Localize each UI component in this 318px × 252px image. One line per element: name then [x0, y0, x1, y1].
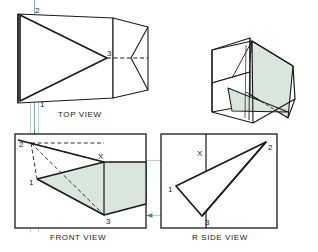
side-view-label-point2: 2 [268, 143, 273, 152]
top-view-group: 2 3 1 TOP VIEW [18, 6, 148, 119]
projector-arrowhead-left-point3 [146, 213, 153, 218]
side-view-label-x: X [197, 149, 203, 158]
front-view-label-point2: 2 [19, 140, 24, 149]
front-view-label-point1: 1 [29, 178, 34, 187]
side-view-label-point1: 1 [168, 185, 173, 194]
front-view-title: FRONT VIEW [50, 233, 106, 242]
pictorial-view-group [212, 38, 295, 123]
top-view-label-point3: 3 [107, 49, 112, 58]
drawing-sheet: 2 3 1 TOP VIEW [0, 0, 318, 252]
orthographic-projection-drawing: 2 3 1 TOP VIEW [0, 0, 318, 252]
top-view-label-point2: 2 [35, 6, 40, 15]
side-view-title: R SIDE VIEW [192, 233, 248, 242]
front-view-label-point3: 3 [106, 217, 111, 226]
top-view-label-point1: 1 [40, 100, 45, 109]
front-view-group: 2 X 1 3 FRONT VIEW [15, 134, 146, 242]
side-view-group: X 2 1 3 R SIDE VIEW [161, 134, 277, 242]
side-view-label-point3: 3 [205, 218, 210, 227]
front-view-label-x: X [98, 152, 104, 161]
top-view-title: TOP VIEW [58, 110, 102, 119]
